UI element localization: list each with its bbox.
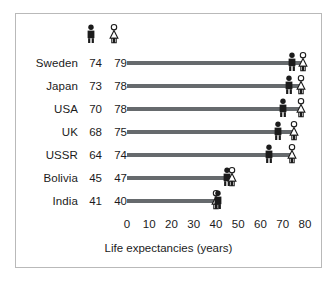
x-tick-70: 70 <box>273 218 293 230</box>
x-tick-60: 60 <box>251 218 271 230</box>
row-female-value: 47 <box>105 172 127 184</box>
x-tick-30: 30 <box>184 218 204 230</box>
x-tick-40: 40 <box>206 218 226 230</box>
male-figure-icon <box>271 121 285 141</box>
row-connector-line <box>127 176 232 180</box>
chart-row: USA7078 <box>16 97 321 120</box>
row-connector-line <box>127 107 301 111</box>
chart-row: Bolivia4547 <box>16 166 321 189</box>
male-figure-icon <box>276 98 290 118</box>
row-label-india: India <box>16 195 78 207</box>
chart-row: USSR6474 <box>16 143 321 166</box>
row-connector-line <box>127 130 294 134</box>
chart-row: Japan7378 <box>16 74 321 97</box>
row-male-value: 74 <box>80 57 102 69</box>
row-male-value: 41 <box>80 195 102 207</box>
row-female-value: 74 <box>105 149 127 161</box>
row-label-usa: USA <box>16 103 78 115</box>
female-figure-icon <box>294 98 308 118</box>
row-female-value: 75 <box>105 126 127 138</box>
row-male-value: 70 <box>80 103 102 115</box>
row-label-sweden: Sweden <box>16 57 78 69</box>
row-female-value: 78 <box>105 103 127 115</box>
female-figure-icon <box>107 24 121 44</box>
row-label-japan: Japan <box>16 80 78 92</box>
male-figure-icon <box>211 190 225 210</box>
row-connector-line <box>127 84 301 88</box>
row-male-value: 64 <box>80 149 102 161</box>
chart-frame: Sweden7479Japan7378USA7078UK6875USSR6474… <box>15 13 322 268</box>
row-label-ussr: USSR <box>16 149 78 161</box>
female-figure-icon <box>285 144 299 164</box>
chart-row: India4140 <box>16 189 321 212</box>
female-figure-icon <box>225 167 239 187</box>
male-figure-icon <box>84 24 98 44</box>
row-female-value: 40 <box>105 195 127 207</box>
male-figure-icon <box>262 144 276 164</box>
chart-row: UK6875 <box>16 120 321 143</box>
row-label-uk: UK <box>16 126 78 138</box>
row-male-value: 73 <box>80 80 102 92</box>
x-tick-0: 0 <box>117 218 137 230</box>
row-female-value: 79 <box>105 57 127 69</box>
row-connector-line <box>127 61 303 65</box>
female-figure-icon <box>296 52 310 72</box>
x-tick-20: 20 <box>162 218 182 230</box>
row-female-value: 78 <box>105 80 127 92</box>
row-male-value: 68 <box>80 126 102 138</box>
x-tick-80: 80 <box>295 218 315 230</box>
row-connector-line <box>127 199 218 203</box>
x-axis-caption: Life expectancies (years) <box>16 242 321 254</box>
female-figure-icon <box>294 75 308 95</box>
row-label-bolivia: Bolivia <box>16 172 78 184</box>
female-figure-icon <box>287 121 301 141</box>
x-tick-10: 10 <box>139 218 159 230</box>
chart-row: Sweden7479 <box>16 51 321 74</box>
row-male-value: 45 <box>80 172 102 184</box>
x-tick-50: 50 <box>228 218 248 230</box>
